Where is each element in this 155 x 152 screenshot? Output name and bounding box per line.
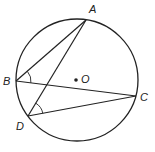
- angle-mark-d: [36, 103, 43, 113]
- angle-mark-b: [28, 72, 32, 83]
- label-b: B: [3, 75, 10, 87]
- circle-diagram: A B C D O: [0, 0, 155, 152]
- label-d: D: [16, 120, 24, 132]
- segment-dc: [28, 96, 136, 116]
- label-c: C: [140, 91, 148, 103]
- center-point-o: [74, 78, 78, 82]
- segment-bc: [16, 81, 136, 96]
- segment-ab: [16, 20, 86, 81]
- label-a: A: [88, 3, 96, 15]
- label-o: O: [81, 73, 90, 85]
